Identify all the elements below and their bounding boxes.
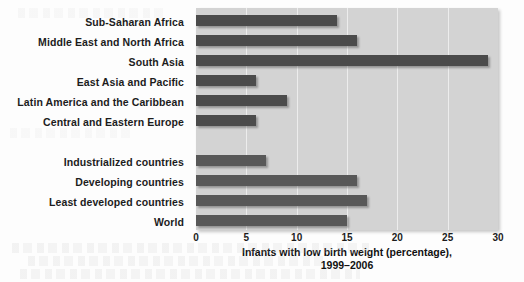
bar-row xyxy=(196,172,498,192)
bar xyxy=(196,115,256,126)
category-label: Sub-Saharan Africa xyxy=(0,12,190,32)
bar xyxy=(196,55,488,66)
category-label: Least developed countries xyxy=(0,192,190,212)
category-label: Latin America and the Caribbean xyxy=(0,92,190,112)
bar xyxy=(196,215,347,226)
category-group-spacer xyxy=(0,132,190,152)
x-tick-label: 25 xyxy=(442,232,453,243)
bar-row xyxy=(196,192,498,212)
category-label-column: Sub-Saharan Africa Middle East and North… xyxy=(0,12,190,232)
bar xyxy=(196,95,287,106)
bar xyxy=(196,155,266,166)
x-tick-label: 20 xyxy=(392,232,403,243)
bar-row xyxy=(196,52,498,72)
bar xyxy=(196,35,357,46)
category-label: Industrialized countries xyxy=(0,152,190,172)
bar-row xyxy=(196,92,498,112)
bar-row xyxy=(196,152,498,172)
background-ghost-text xyxy=(20,269,360,279)
background-ghost-text xyxy=(28,256,328,266)
bar xyxy=(196,75,256,86)
bars-layer xyxy=(196,12,498,232)
bar xyxy=(196,195,367,206)
bar-row xyxy=(196,32,498,52)
bar-row xyxy=(196,12,498,32)
x-tick-label: 10 xyxy=(291,232,302,243)
category-label: World xyxy=(0,212,190,232)
low-birth-weight-bar-chart: Sub-Saharan Africa Middle East and North… xyxy=(0,0,524,282)
category-label: Developing countries xyxy=(0,172,190,192)
bar-row xyxy=(196,112,498,132)
background-ghost-text xyxy=(12,243,372,253)
category-label: Middle East and North Africa xyxy=(0,32,190,52)
bar-row xyxy=(196,132,498,152)
bar xyxy=(196,175,357,186)
bar-row xyxy=(196,212,498,232)
category-label: Central and Eastern Europe xyxy=(0,112,190,132)
bar-row xyxy=(196,72,498,92)
x-tick-label: 30 xyxy=(492,232,503,243)
x-tick-label: 5 xyxy=(244,232,250,243)
plot-area xyxy=(196,8,498,230)
category-label: South Asia xyxy=(0,52,190,72)
x-tick-label: 0 xyxy=(193,232,199,243)
x-tick-label: 15 xyxy=(341,232,352,243)
category-label: East Asia and Pacific xyxy=(0,72,190,92)
bar xyxy=(196,15,337,26)
